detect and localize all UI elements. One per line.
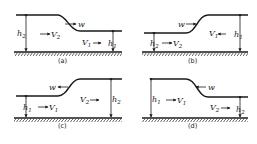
- velocity-label-left: V1: [49, 103, 58, 113]
- water-surface: [16, 15, 122, 31]
- depth-label-left: h1: [23, 103, 32, 113]
- panel-a: h2 V2 w V1 h1 (a): [14, 15, 122, 65]
- velocity-label-left: V2: [51, 30, 61, 40]
- depth-label-right: h1: [234, 30, 243, 40]
- depth-label-right: h1: [108, 39, 117, 49]
- bed-hatching: [142, 53, 248, 56]
- panel-caption: (d): [188, 122, 197, 130]
- water-surface: [16, 79, 122, 96]
- depth-label-right: h2: [236, 105, 245, 115]
- bed-hatching: [14, 119, 122, 122]
- panel-d: h1 V1 w V2 h2 (d): [142, 79, 248, 130]
- depth-label-left: h2: [150, 39, 159, 49]
- bed-hatching: [14, 53, 122, 56]
- wave-label: w: [78, 20, 85, 29]
- velocity-label-right: V1: [82, 38, 91, 48]
- water-surface: [150, 79, 248, 97]
- depth-label-right: h2: [112, 95, 121, 105]
- panel-c: h1 V1 w V2 h2 (c): [14, 79, 122, 130]
- depth-label-left: h1: [152, 95, 161, 105]
- velocity-label-right: V1: [209, 29, 218, 39]
- velocity-label-left: V2: [173, 39, 183, 49]
- wave-label: w: [208, 83, 215, 92]
- velocity-label-right: V2: [80, 95, 90, 105]
- surge-wave-diagram: h2 V2 w V1 h1 (a) h2 V2 w V1 h1 (b) h1 V…: [0, 0, 257, 144]
- wave-label: w: [178, 20, 185, 29]
- velocity-label-right: V2: [210, 103, 220, 113]
- panel-b: h2 V2 w V1 h1 (b): [142, 15, 248, 65]
- wave-label: w: [49, 83, 56, 92]
- panel-caption: (c): [58, 122, 67, 130]
- panel-caption: (a): [58, 57, 67, 65]
- depth-label-left: h2: [17, 29, 26, 39]
- velocity-label-left: V1: [177, 96, 186, 106]
- panel-caption: (b): [188, 57, 197, 65]
